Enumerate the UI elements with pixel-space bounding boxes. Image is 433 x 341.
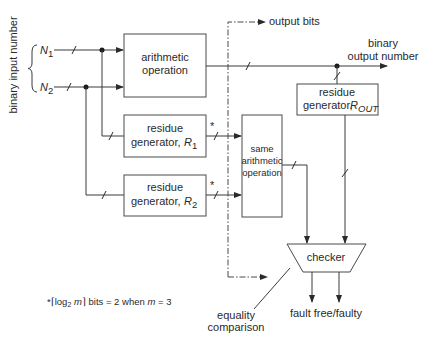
equality-label: comparison bbox=[208, 321, 265, 333]
fault-label: fault free/faulty bbox=[290, 307, 363, 319]
svg-text:OUT: OUT bbox=[358, 103, 379, 114]
wire-n2-to-r2 bbox=[86, 87, 124, 195]
svg-text:residue: residue bbox=[147, 181, 183, 193]
arithmetic-operation-block: arithmetic operation bbox=[124, 34, 206, 97]
svg-text:1: 1 bbox=[48, 48, 53, 59]
same-arithmetic-operation-block: same arithmetic operation bbox=[241, 115, 282, 217]
star-mark: * bbox=[210, 179, 215, 191]
residue-generator-r2: residue generator, R 2 bbox=[124, 175, 206, 216]
svg-text:2: 2 bbox=[48, 85, 53, 96]
svg-text:R: R bbox=[350, 99, 358, 111]
svg-text:residue: residue bbox=[319, 86, 355, 98]
equality-leader-line bbox=[254, 268, 290, 309]
input-label: binary input number bbox=[7, 16, 19, 114]
footnote: *⌈log2 m⌉ bits = 2 when m = 3 bbox=[47, 296, 171, 308]
binary-output-label: output number bbox=[348, 50, 419, 62]
svg-text:operation: operation bbox=[242, 167, 282, 178]
svg-text:generator,: generator, bbox=[303, 99, 353, 111]
brace-icon bbox=[28, 45, 37, 92]
svg-text:same: same bbox=[250, 143, 273, 154]
binary-output-label: binary bbox=[368, 37, 398, 49]
output-bits-label: output bits bbox=[269, 15, 320, 27]
wire-same-arith-to-checker bbox=[282, 165, 307, 243]
residue-checker-diagram: binary input number N 1 N 2 arithmetic o… bbox=[0, 0, 433, 341]
svg-text:*⌈log2 m⌉ bits = 2 when m = 3: *⌈log2 m⌉ bits = 2 when m = 3 bbox=[47, 296, 171, 308]
svg-text:generator,: generator, bbox=[131, 136, 181, 148]
svg-text:arithmetic: arithmetic bbox=[241, 155, 282, 166]
svg-text:generator,: generator, bbox=[131, 195, 181, 207]
svg-text:arithmetic: arithmetic bbox=[141, 51, 189, 63]
residue-generator-r1: residue generator, R 1 bbox=[124, 115, 206, 157]
checker-block: checker bbox=[287, 244, 366, 272]
svg-text:residue: residue bbox=[147, 122, 183, 134]
input-n1: N 1 bbox=[40, 44, 53, 59]
svg-text:2: 2 bbox=[192, 199, 197, 210]
svg-text:R: R bbox=[184, 195, 192, 207]
wire-n1-to-r1 bbox=[102, 50, 124, 136]
input-n2: N 2 bbox=[40, 81, 53, 96]
residue-generator-rout: residue generator, R OUT bbox=[297, 84, 379, 115]
equality-label: equality bbox=[217, 309, 255, 321]
svg-text:N: N bbox=[40, 44, 48, 56]
svg-text:checker: checker bbox=[307, 251, 346, 263]
svg-text:N: N bbox=[40, 81, 48, 93]
svg-text:R: R bbox=[184, 136, 192, 148]
svg-text:operation: operation bbox=[142, 64, 188, 76]
svg-text:1: 1 bbox=[192, 140, 197, 151]
star-mark: * bbox=[210, 120, 215, 132]
